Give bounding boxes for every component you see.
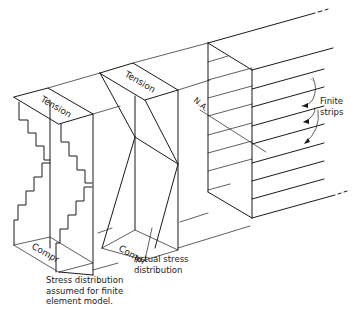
finite-strips-label: Finite strips [320, 96, 343, 117]
tension-label-1: Tension [38, 94, 73, 120]
actual-stress-caption: Actual stress distribution [134, 254, 189, 275]
tension-label-2: Tension [122, 69, 157, 95]
finite-element-caption: Stress distribution assumed for finite e… [46, 275, 123, 307]
stress-distribution-diagram: Tension Compr Tension Compr N.A. Finite … [0, 0, 359, 314]
actual-stress-block [100, 63, 178, 260]
compr-label-1: Compr [30, 241, 61, 265]
finite-element-block [14, 88, 93, 275]
